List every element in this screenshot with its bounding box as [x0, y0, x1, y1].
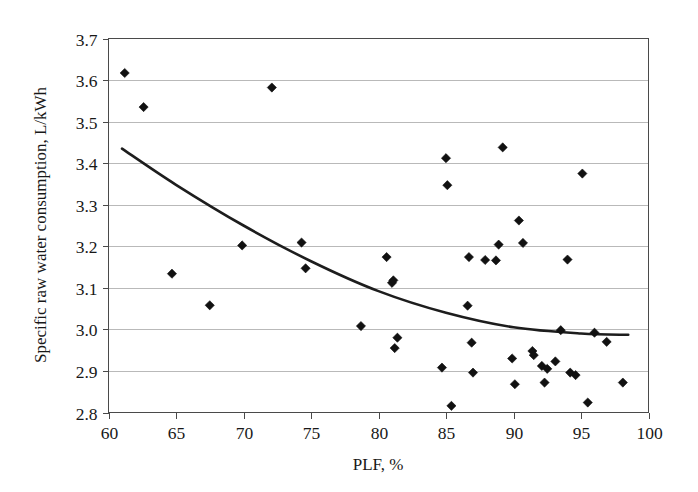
x-tick-label: 80	[371, 423, 389, 443]
x-tick-label: 60	[101, 423, 119, 443]
x-tick-label: 65	[168, 423, 186, 443]
y-tick-label: 3.2	[76, 237, 98, 257]
y-tick-label: 3.6	[76, 71, 98, 91]
y-tick-label: 3.7	[76, 30, 98, 50]
y-tick-label: 3.0	[76, 320, 98, 340]
y-axis-title: Specific raw water consumption, L/kWh	[31, 86, 50, 363]
x-tick-label: 75	[303, 423, 321, 443]
y-tick-label: 3.1	[76, 279, 98, 299]
x-axis-title: PLF, %	[353, 455, 404, 474]
y-tick-label: 3.5	[76, 113, 98, 133]
x-tick-label: 85	[438, 423, 456, 443]
y-tick-label: 2.9	[76, 362, 98, 382]
figure-container: 2.82.93.03.13.23.33.43.53.63.7 606570758…	[0, 0, 698, 492]
x-tick-label: 100	[636, 423, 663, 443]
y-tick-label: 3.3	[76, 196, 98, 216]
x-tick-label-group: 6065707580859095100	[101, 423, 663, 443]
x-tick-label: 70	[236, 423, 254, 443]
x-tick-label: 90	[506, 423, 524, 443]
y-tick-label: 2.8	[76, 404, 98, 424]
scatter-chart: 2.82.93.03.13.23.33.43.53.63.7 606570758…	[0, 0, 698, 492]
x-tick-label: 95	[573, 423, 591, 443]
y-tick-label: 3.4	[76, 154, 98, 174]
